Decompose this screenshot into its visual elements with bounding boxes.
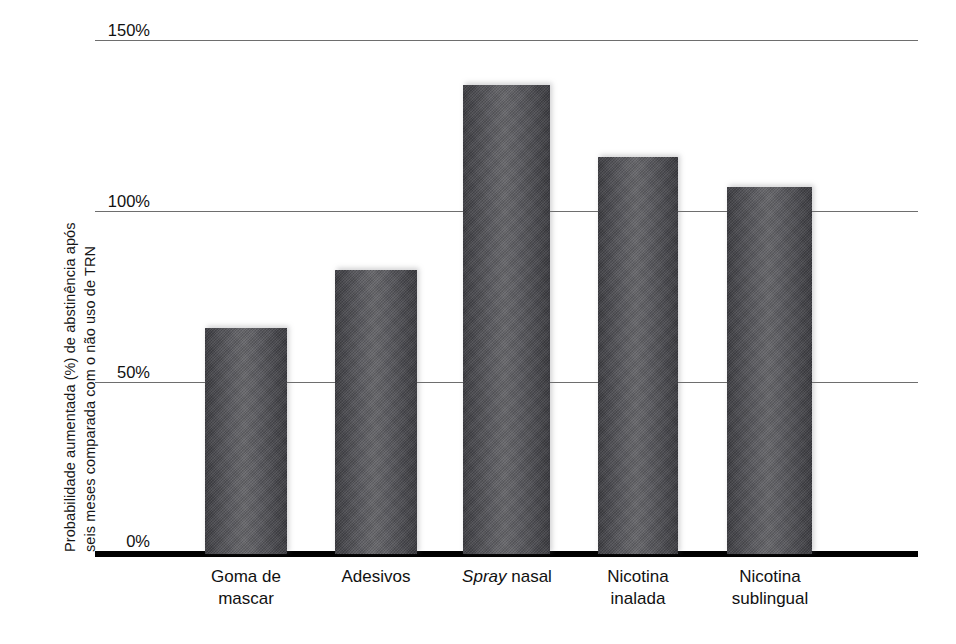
bar-nicotina-sublingual[interactable]: [727, 187, 812, 554]
bars-layer: [0, 0, 956, 644]
x-label-line-1: Goma de: [186, 566, 306, 588]
x-label-line-2: inalada: [578, 588, 698, 610]
bar-spray-nasal[interactable]: [463, 85, 550, 554]
x-label-emphasis: Spray: [462, 567, 506, 586]
x-label-adesivos: Adesivos: [316, 566, 436, 588]
bar-goma-de-mascar[interactable]: [205, 328, 287, 554]
x-label-line-1: Nicotina: [700, 566, 840, 588]
bar-chart: Probabilidade aumentada (%) de abstinênc…: [0, 0, 956, 644]
bar-nicotina-inalada[interactable]: [598, 157, 678, 554]
x-label-goma-de-mascar: Goma de mascar: [186, 566, 306, 611]
x-label-nicotina-inalada: Nicotina inalada: [578, 566, 698, 611]
x-label-line-2: mascar: [186, 588, 306, 610]
x-label-nicotina-sublingual: Nicotina sublingual: [700, 566, 840, 611]
x-label-spray-nasal: Spray nasal: [446, 566, 568, 588]
x-label-line-2: sublingual: [700, 588, 840, 610]
x-label-line-1: Nicotina: [578, 566, 698, 588]
x-label-line-1: Adesivos: [316, 566, 436, 588]
bar-adesivos[interactable]: [335, 270, 417, 554]
x-label-rest: nasal: [511, 567, 552, 586]
x-label-line-1: Spray nasal: [446, 566, 568, 588]
